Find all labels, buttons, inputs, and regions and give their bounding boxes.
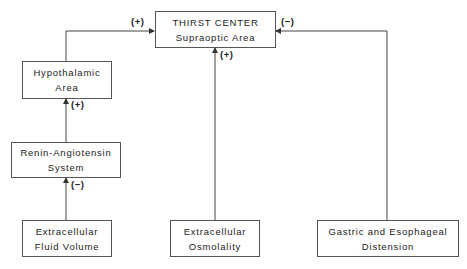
gastric-line1: Gastric and Esophageal (329, 224, 448, 239)
ecf-line2: Fluid Volume (35, 239, 100, 254)
edge-label-renin-hypothalamic: (+) (71, 99, 84, 110)
edge-label-gastric-thirst: (−) (281, 16, 294, 27)
hypothalamic-line2: Area (55, 80, 78, 95)
hypothalamic-area-box: Hypothalamic Area (22, 61, 112, 99)
renin-angiotensin-box: Renin-Angiotensin System (11, 142, 121, 178)
renin-line1: Renin-Angiotensin (20, 145, 111, 160)
hypothalamic-line1: Hypothalamic (33, 65, 100, 80)
thirst-center-subtitle: Supraoptic Area (176, 30, 256, 45)
osmolality-line2: Osmolality (189, 239, 241, 254)
osmolality-box: Extracellular Osmolality (170, 220, 260, 257)
thirst-center-title: THIRST CENTER (172, 15, 258, 30)
renin-line2: System (48, 160, 84, 175)
osmolality-line1: Extracellular (184, 224, 247, 239)
edge-label-ecf-renin: (−) (71, 179, 84, 190)
ecf-volume-box: Extracellular Fluid Volume (22, 220, 112, 257)
thirst-center-box: THIRST CENTER Supraoptic Area (155, 11, 276, 48)
ecf-line1: Extracellular (36, 224, 99, 239)
edge-label-osmolality-thirst: (+) (220, 49, 233, 60)
gastric-line2: Distension (362, 239, 414, 254)
edge-label-hypothalamic-thirst: (+) (131, 16, 144, 27)
gastric-distension-box: Gastric and Esophageal Distension (317, 220, 459, 257)
